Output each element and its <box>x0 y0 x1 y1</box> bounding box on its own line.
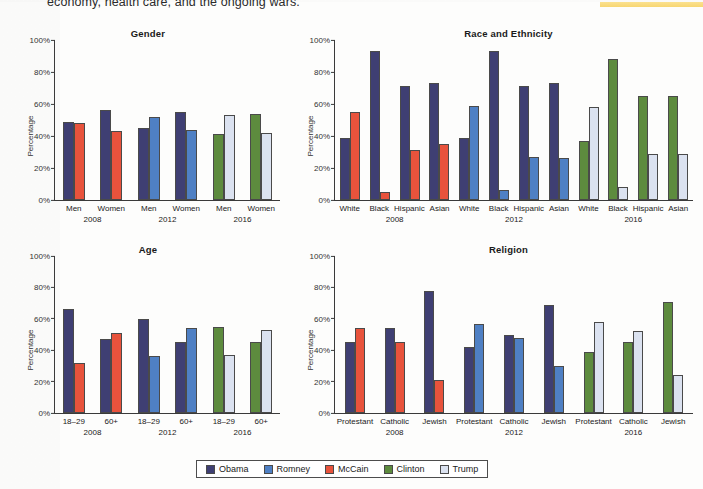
bar-slot <box>603 40 633 200</box>
category-labels: WhiteBlackHispanicAsian <box>335 200 454 213</box>
bar-mccain[interactable] <box>395 342 405 413</box>
bar-obama[interactable] <box>63 122 74 200</box>
bar-mccain[interactable] <box>439 144 449 200</box>
bar-trump[interactable] <box>224 115 235 200</box>
bar-obama[interactable] <box>489 51 499 200</box>
x-axis-tick-label: Men <box>55 200 93 213</box>
bar-obama[interactable] <box>400 86 410 200</box>
bar-clinton[interactable] <box>250 342 261 413</box>
bar-mccain[interactable] <box>74 363 85 413</box>
legend-item-obama[interactable]: Obama <box>206 464 249 474</box>
bar-romney[interactable] <box>149 117 160 200</box>
bar-romney[interactable] <box>554 366 564 413</box>
legend-item-trump[interactable]: Trump <box>440 464 479 474</box>
bar-trump[interactable] <box>618 187 628 200</box>
bar-obama[interactable] <box>175 342 186 413</box>
bar-group-2008: WhiteBlackHispanicAsian2008 <box>335 40 454 200</box>
bar-romney[interactable] <box>499 190 509 200</box>
bar-trump[interactable] <box>224 355 235 413</box>
bar-mccain[interactable] <box>111 131 122 200</box>
bar-obama[interactable] <box>175 112 186 200</box>
bar-slot <box>514 40 544 200</box>
bar-mccain[interactable] <box>111 333 122 413</box>
category-labels: 18–2960+ <box>55 413 130 426</box>
legend-swatch-clinton <box>384 465 393 474</box>
bar-obama[interactable] <box>138 319 149 413</box>
bar-obama[interactable] <box>138 128 149 200</box>
bar-obama[interactable] <box>429 83 439 200</box>
y-axis-tick: 60% <box>314 100 335 109</box>
x-axis-tick-label: Jewish <box>534 413 574 426</box>
bar-obama[interactable] <box>340 138 350 200</box>
bar-trump[interactable] <box>594 322 604 413</box>
bar-trump[interactable] <box>673 375 683 413</box>
bar-mccain[interactable] <box>410 150 420 200</box>
bar-romney[interactable] <box>514 338 524 413</box>
bar-obama[interactable] <box>370 51 380 200</box>
bar-trump[interactable] <box>678 154 688 200</box>
y-axis-tick: 20% <box>314 164 335 173</box>
bar-obama[interactable] <box>544 305 554 413</box>
bar-clinton[interactable] <box>668 96 678 200</box>
y-axis-tick: 80% <box>34 68 55 77</box>
bar-clinton[interactable] <box>250 114 261 200</box>
y-axis-tick: 0% <box>38 409 55 418</box>
bar-trump[interactable] <box>261 133 272 200</box>
bar-obama[interactable] <box>519 86 529 200</box>
bar-clinton[interactable] <box>608 59 618 200</box>
x-axis-tick-label: Women <box>168 200 206 213</box>
bar-mccain[interactable] <box>380 192 390 200</box>
bar-obama[interactable] <box>63 309 74 413</box>
x-axis-tick-label: Women <box>243 200 281 213</box>
bar-romney[interactable] <box>559 158 569 200</box>
bar-romney[interactable] <box>149 356 160 413</box>
bar-clinton[interactable] <box>638 96 648 200</box>
y-axis-tick: 0% <box>318 196 335 205</box>
bar-romney[interactable] <box>186 328 197 413</box>
bar-trump[interactable] <box>589 107 599 200</box>
legend-item-clinton[interactable]: Clinton <box>384 464 425 474</box>
category-labels: 18–2960+ <box>205 413 280 426</box>
bar-clinton[interactable] <box>663 302 673 413</box>
bar-group-2012: ProtestantCatholicJewish2012 <box>454 256 573 413</box>
x-axis-tick-label: Men <box>130 200 168 213</box>
bar-clinton[interactable] <box>213 134 224 200</box>
bar-obama[interactable] <box>100 339 111 413</box>
bar-obama[interactable] <box>459 138 469 200</box>
x-axis-tick-label: Catholic <box>494 413 534 426</box>
bar-romney[interactable] <box>529 157 539 200</box>
bar-slot <box>55 40 93 200</box>
bar-mccain[interactable] <box>434 380 444 413</box>
bar-clinton[interactable] <box>213 327 224 413</box>
bar-romney[interactable] <box>186 130 197 200</box>
bar-slot <box>424 40 454 200</box>
bar-trump[interactable] <box>633 331 643 413</box>
bar-obama[interactable] <box>464 347 474 413</box>
bar-romney[interactable] <box>474 324 484 413</box>
bar-trump[interactable] <box>648 154 658 200</box>
bar-mccain[interactable] <box>74 123 85 200</box>
bar-trump[interactable] <box>261 330 272 413</box>
bar-mccain[interactable] <box>355 328 365 413</box>
bar-clinton[interactable] <box>579 141 589 200</box>
bar-group-2008: 18–2960+2008 <box>55 256 130 413</box>
bar-obama[interactable] <box>424 291 434 413</box>
x-axis-tick-label: Catholic <box>375 413 415 426</box>
chart-grid: Gender Percentage 100%80%60%40%20%0%MenW… <box>0 28 703 458</box>
bar-obama[interactable] <box>345 342 355 413</box>
category-labels: MenWomen <box>130 200 205 213</box>
y-axis-tick: 20% <box>34 164 55 173</box>
bar-obama[interactable] <box>385 328 395 413</box>
bar-slot <box>93 40 131 200</box>
bar-obama[interactable] <box>549 83 559 200</box>
group-year-label: 2012 <box>130 215 205 224</box>
bar-clinton[interactable] <box>623 342 633 413</box>
bar-mccain[interactable] <box>350 112 360 200</box>
bar-romney[interactable] <box>469 106 479 200</box>
legend-item-romney[interactable]: Romney <box>264 464 311 474</box>
bar-clinton[interactable] <box>584 352 594 413</box>
bar-obama[interactable] <box>100 110 111 200</box>
legend-item-mccain[interactable]: McCain <box>325 464 369 474</box>
bars <box>130 40 205 200</box>
bar-obama[interactable] <box>504 335 514 414</box>
